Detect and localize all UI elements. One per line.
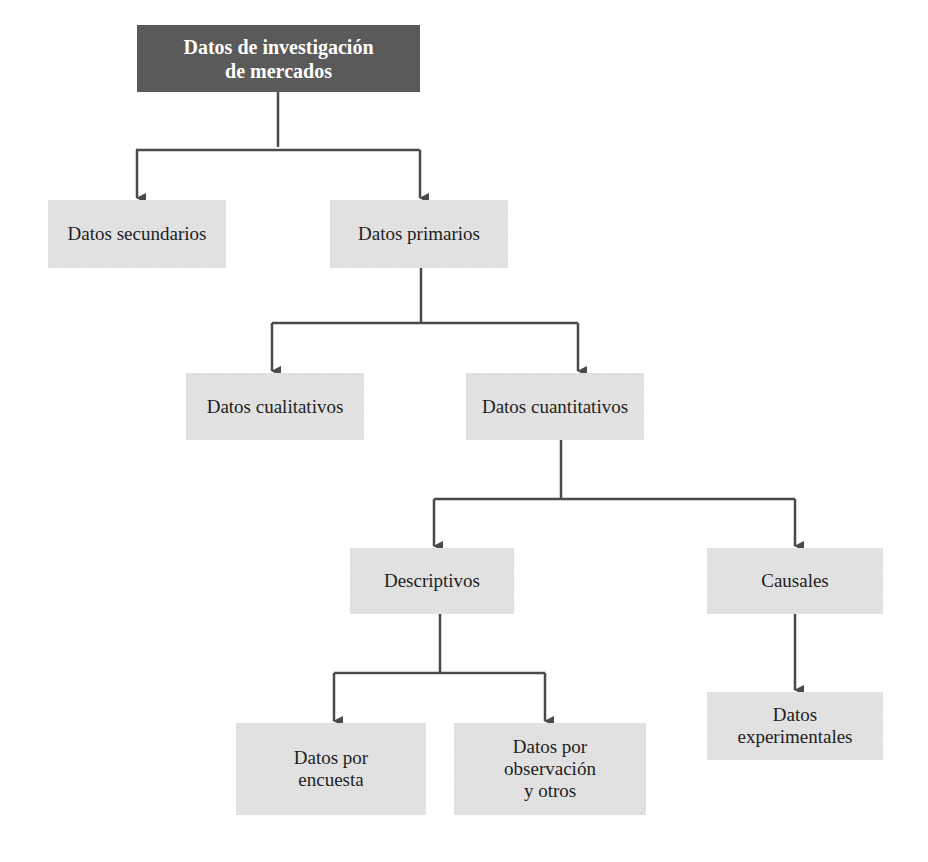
node-datos-experimentales: Datos experimentales <box>707 692 883 760</box>
node-label: Datos por encuesta <box>294 747 368 791</box>
node-datos-por-observacion: Datos por observación y otros <box>454 723 646 815</box>
node-label: Descriptivos <box>384 570 480 592</box>
node-label: Causales <box>761 570 829 592</box>
node-datos-por-encuesta: Datos por encuesta <box>236 723 426 815</box>
node-descriptivos: Descriptivos <box>350 548 514 614</box>
node-datos-cuantitativos: Datos cuantitativos <box>466 373 644 440</box>
node-label: Datos cualitativos <box>207 396 344 418</box>
node-label: Datos experimentales <box>737 704 852 748</box>
node-label: Datos cuantitativos <box>482 396 628 418</box>
node-label: Datos de investigación de mercados <box>184 35 374 83</box>
node-label: Datos secundarios <box>68 223 207 245</box>
node-datos-cualitativos: Datos cualitativos <box>186 373 364 440</box>
node-datos-primarios: Datos primarios <box>330 200 508 268</box>
node-datos-investigacion-mercados: Datos de investigación de mercados <box>137 25 420 92</box>
node-causales: Causales <box>707 548 883 614</box>
node-label: Datos primarios <box>358 223 480 245</box>
node-datos-secundarios: Datos secundarios <box>48 200 226 268</box>
node-label: Datos por observación y otros <box>504 736 596 802</box>
